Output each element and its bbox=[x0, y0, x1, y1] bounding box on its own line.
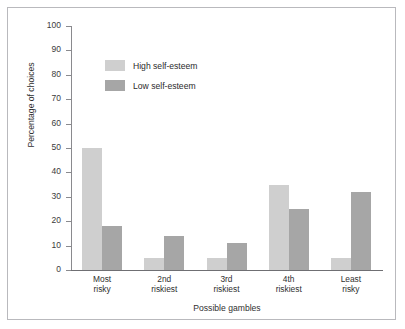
x-axis-category-label: 3rdriskiest bbox=[195, 274, 257, 295]
x-axis-category-label-line: 3rd bbox=[195, 274, 257, 284]
y-axis-tick bbox=[66, 50, 71, 51]
legend-swatch-icon-low bbox=[105, 80, 125, 91]
x-axis-category-label: 2ndriskiest bbox=[133, 274, 195, 295]
y-axis-tick-label: 30 bbox=[21, 192, 61, 201]
y-axis-tick bbox=[66, 172, 71, 173]
y-axis-tick-label: 0 bbox=[21, 265, 61, 274]
y-axis-tick-label-wrap: 30 bbox=[8, 192, 61, 193]
y-axis-tick bbox=[66, 246, 71, 247]
bar-low-self-esteem bbox=[102, 226, 122, 270]
y-axis-tick-label-wrap: 0 bbox=[8, 265, 61, 266]
x-axis-category-label-line: riskiest bbox=[133, 284, 195, 294]
bar-low-self-esteem bbox=[351, 192, 371, 270]
x-axis-category-label-line: 2nd bbox=[133, 274, 195, 284]
bar-high-self-esteem bbox=[144, 258, 164, 270]
bar-high-self-esteem bbox=[207, 258, 227, 270]
legend-item-low-self-esteem: Low self-esteem bbox=[105, 80, 197, 91]
legend-label-high: High self-esteem bbox=[133, 61, 197, 71]
y-axis-tick bbox=[66, 148, 71, 149]
x-axis-category-label-line: Least bbox=[320, 274, 382, 284]
y-axis-label: Percentage of choices bbox=[26, 35, 36, 175]
chart-legend: High self-esteem Low self-esteem bbox=[105, 60, 197, 100]
y-axis-tick-label-wrap: 10 bbox=[8, 241, 61, 242]
bar-high-self-esteem bbox=[82, 148, 102, 270]
legend-item-high-self-esteem: High self-esteem bbox=[105, 60, 197, 71]
bar-low-self-esteem bbox=[227, 243, 247, 270]
x-axis-category-label-line: 4th bbox=[258, 274, 320, 284]
y-axis-tick bbox=[66, 26, 71, 27]
y-axis-tick bbox=[66, 270, 71, 271]
chart-figure: 0102030405060708090100 Percentage of cho… bbox=[0, 0, 405, 329]
chart-frame: 0102030405060708090100 Percentage of cho… bbox=[7, 7, 396, 320]
y-axis-tick-label: 10 bbox=[21, 241, 61, 250]
bar-low-self-esteem bbox=[164, 236, 184, 270]
x-axis-category-label: Leastrisky bbox=[320, 274, 382, 295]
x-axis-category-label-line: risky bbox=[320, 284, 382, 294]
y-axis-tick bbox=[66, 99, 71, 100]
x-axis-category-label: 4thriskiest bbox=[258, 274, 320, 295]
y-axis-tick bbox=[66, 197, 71, 198]
y-axis-tick bbox=[66, 75, 71, 76]
x-axis-label: Possible gambles bbox=[71, 303, 383, 313]
x-axis-category-label-line: riskiest bbox=[258, 284, 320, 294]
y-axis-line bbox=[71, 26, 72, 271]
bar-low-self-esteem bbox=[289, 209, 309, 270]
y-axis-tick-label-wrap: 20 bbox=[8, 216, 61, 217]
legend-label-low: Low self-esteem bbox=[133, 81, 196, 91]
y-axis-tick-label: 100 bbox=[21, 21, 61, 30]
y-axis-tick-label: 20 bbox=[21, 216, 61, 225]
y-axis-tick-label-wrap: 100 bbox=[8, 21, 61, 22]
x-axis-category-label-line: Most bbox=[71, 274, 133, 284]
x-axis-category-label-line: risky bbox=[71, 284, 133, 294]
y-axis-tick bbox=[66, 221, 71, 222]
y-axis-tick bbox=[66, 124, 71, 125]
bar-high-self-esteem bbox=[331, 258, 351, 270]
bar-high-self-esteem bbox=[269, 185, 289, 270]
x-axis-line bbox=[71, 270, 383, 271]
x-axis-category-label: Mostrisky bbox=[71, 274, 133, 295]
x-axis-category-label-line: riskiest bbox=[195, 284, 257, 294]
legend-swatch-icon-high bbox=[105, 60, 125, 71]
